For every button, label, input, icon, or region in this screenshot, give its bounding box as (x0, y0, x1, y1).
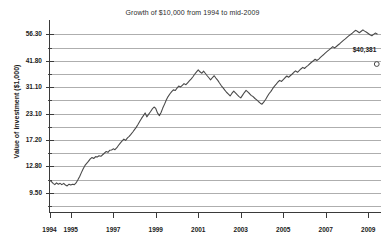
x-tick-label: 2001 (178, 226, 218, 233)
x-tick-label: 2003 (221, 226, 261, 233)
gridlines (50, 35, 382, 207)
series-line (50, 30, 378, 186)
axis-tickmarks (46, 35, 369, 218)
x-tick-label: 1997 (93, 226, 133, 233)
end-point-circle (374, 62, 379, 67)
plot-area (0, 0, 385, 249)
x-tick-label: 2007 (306, 226, 346, 233)
chart-container: Growth of $10,000 from 1994 to mid-2009 … (0, 0, 385, 249)
x-tick-label: 1999 (136, 226, 176, 233)
x-tick-label: 1995 (51, 226, 91, 233)
x-tick-label: 2005 (263, 226, 303, 233)
end-value-annotation: $40,381 (353, 46, 377, 53)
data-series (50, 30, 378, 186)
end-point-marker (374, 62, 379, 67)
x-tick-label: 2009 (348, 226, 385, 233)
